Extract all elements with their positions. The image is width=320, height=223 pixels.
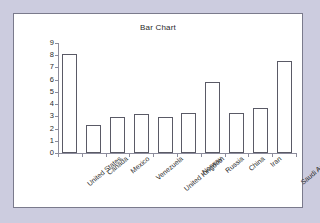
bar-norway[interactable]	[181, 113, 196, 153]
x-label-text: Russia	[224, 155, 245, 174]
bar-united-kingdom[interactable]	[158, 117, 173, 153]
y-axis-line	[58, 43, 59, 153]
y-tick-label: 2	[50, 124, 54, 133]
x-label-text: Norway	[200, 155, 223, 176]
x-label-saudi-arabia: Saudi Arabia	[299, 155, 318, 186]
bar-canada[interactable]	[86, 125, 101, 153]
bar-china[interactable]	[229, 113, 244, 153]
y-tick-label: 5	[50, 87, 54, 96]
y-tick-mark	[55, 92, 59, 93]
y-tick-mark	[55, 80, 59, 81]
bar-venezuela[interactable]	[134, 114, 149, 153]
x-label-norway: Norway	[200, 155, 223, 176]
y-tick-mark	[55, 55, 59, 56]
bar-iran[interactable]	[253, 108, 268, 153]
y-tick-label: 4	[50, 99, 54, 108]
chart-panel: Bar Chart 0123456789 United StatesCanada…	[13, 13, 303, 208]
y-tick-label: 3	[50, 111, 54, 120]
y-tick-label: 0	[50, 148, 54, 157]
x-label-mexico: Mexico	[129, 155, 150, 175]
y-tick-label: 9	[50, 38, 54, 47]
bar-united-states[interactable]	[62, 54, 77, 153]
x-label-text: China	[247, 155, 266, 172]
x-label-russia: Russia	[224, 155, 245, 174]
y-tick-mark	[55, 43, 59, 44]
chart-title: Bar Chart	[14, 23, 302, 32]
x-label-venezuela: Venezuela	[155, 155, 185, 181]
x-label-china: China	[247, 155, 266, 172]
y-tick-label: 6	[50, 75, 54, 84]
x-label-text: Iran	[269, 155, 283, 168]
y-tick-mark	[55, 129, 59, 130]
y-tick-label: 1	[50, 136, 54, 145]
bar-mexico[interactable]	[110, 117, 125, 153]
x-label-text: Venezuela	[155, 155, 185, 181]
plot-area: 0123456789	[58, 43, 296, 153]
x-label-text: Mexico	[129, 155, 150, 175]
y-tick-mark	[55, 141, 59, 142]
x-axis-labels: United StatesCanadaMexicoVenezuelaUnited…	[58, 155, 308, 215]
bar-russia[interactable]	[205, 82, 220, 154]
x-label-iran: Iran	[269, 155, 283, 168]
y-tick-label: 8	[50, 50, 54, 59]
y-tick-mark	[55, 116, 59, 117]
y-tick-mark	[55, 67, 59, 68]
y-tick-mark	[55, 104, 59, 105]
x-label-text: Saudi Arabia	[299, 155, 318, 186]
y-tick-label: 7	[50, 62, 54, 71]
bar-saudi-arabia[interactable]	[277, 61, 292, 153]
